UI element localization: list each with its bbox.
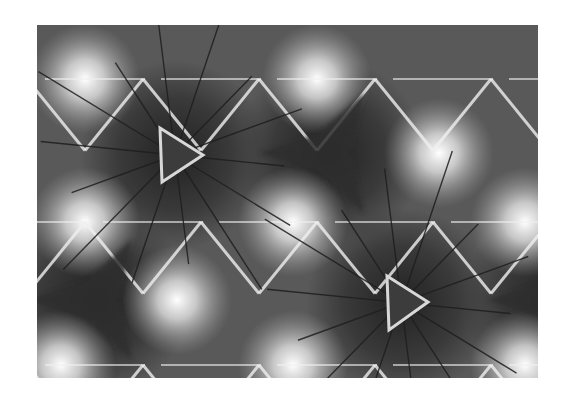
kaleidoscope-pattern-figure xyxy=(37,25,538,378)
pattern-canvas xyxy=(37,25,538,378)
